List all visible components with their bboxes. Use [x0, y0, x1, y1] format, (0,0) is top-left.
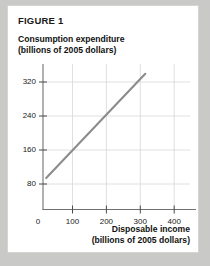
x-axis-title: Disposable income (billions of 2005 doll…: [92, 224, 190, 245]
horizontal-gridlines: [43, 82, 190, 184]
chart-svg: [8, 6, 198, 252]
y-tick-label-240: 240: [12, 111, 36, 120]
y-tick-label-320: 320: [12, 77, 36, 86]
plot-area: 320 240 160 80 0 100 200 300 400 Disposa…: [8, 6, 198, 252]
y-tick-label-160: 160: [12, 145, 36, 154]
x-tick-label-0: 0: [27, 217, 49, 226]
x-axis-title-line-2: (billions of 2005 dollars): [92, 235, 190, 246]
x-tick-label-100: 100: [62, 217, 84, 226]
y-tick-label-80: 80: [12, 179, 36, 188]
x-axis-title-line-1: Disposable income: [92, 224, 190, 235]
figure-card: FIGURE 1 Consumption expenditure (billio…: [8, 6, 198, 252]
vertical-gridlines: [73, 64, 175, 209]
consumption-function-line: [46, 74, 145, 178]
